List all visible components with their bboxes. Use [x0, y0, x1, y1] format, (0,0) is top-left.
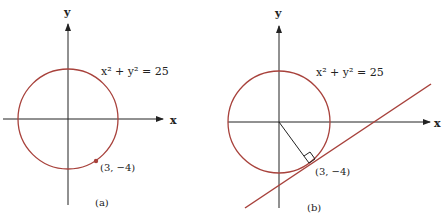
x-axis-label: x	[434, 117, 441, 130]
right-angle-marker	[304, 152, 315, 163]
figure: y x x² + y² = 25 (3, −4) (a) y x x² + y²…	[0, 0, 448, 219]
panel-a: y x x² + y² = 25 (3, −4) (a)	[3, 6, 177, 208]
y-axis-label: y	[274, 7, 282, 20]
caption-b: (b)	[307, 202, 321, 213]
point-label: (3, −4)	[315, 166, 350, 177]
equation-label: x² + y² = 25	[316, 66, 384, 79]
panel-b: y x x² + y² = 25 (3, −4) (b)	[228, 7, 441, 213]
point-label: (3, −4)	[100, 162, 135, 173]
x-axis-label: x	[170, 114, 177, 127]
tangent-line	[245, 84, 431, 208]
point-marker	[94, 159, 98, 163]
radius-segment	[279, 122, 309, 163]
equation-label: x² + y² = 25	[101, 65, 169, 78]
y-axis-label: y	[63, 6, 71, 19]
caption-a: (a)	[95, 197, 109, 208]
